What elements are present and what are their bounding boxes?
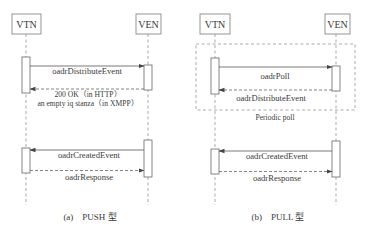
actor-vtn: VTN: [200, 14, 230, 34]
actor-vtn: VTN: [12, 14, 41, 34]
panel-pull: VTN VEN Periodic poll oadrPoll oadrDistr…: [196, 14, 355, 222]
actor-ven-label: VEN: [138, 19, 159, 30]
actor-ven: VEN: [325, 14, 350, 34]
msg-response: oadrResponse: [253, 173, 301, 183]
periodic-poll-label: Periodic poll: [255, 113, 294, 122]
actor-ven: VEN: [136, 14, 161, 34]
msg-poll: oadrPoll: [260, 71, 290, 81]
actor-ven-label: VEN: [327, 19, 348, 30]
activation-vtn-2: [22, 148, 30, 173]
actor-vtn-label: VTN: [205, 19, 226, 30]
msg-200-ok: 200 OK（in HTTP）: [54, 90, 121, 99]
msg-response: oadrResponse: [65, 172, 113, 182]
msg-created-event: oadrCreatedEvent: [246, 151, 309, 161]
msg-created-event: oadrCreatedEvent: [58, 150, 121, 160]
panel-push: VTN VEN oadrDistributeEvent 200 OK（in HT…: [12, 14, 161, 222]
actor-vtn-label: VTN: [16, 19, 37, 30]
activation-vtn-1: [211, 58, 219, 94]
activation-ven-2: [144, 140, 152, 177]
msg-distribute-event: oadrDistributeEvent: [236, 93, 306, 103]
activation-ven-1: [332, 66, 340, 91]
activation-vtn-1: [22, 57, 30, 93]
activation-ven-2: [332, 141, 340, 177]
activation-vtn-2: [211, 149, 219, 174]
caption-push: (a) PUSH 型: [63, 212, 116, 222]
sequence-diagrams: VTN VEN oadrDistributeEvent 200 OK（in HT…: [0, 0, 366, 231]
msg-distribute-event: oadrDistributeEvent: [52, 66, 122, 76]
msg-empty-iq-stanza: an empty iq stanza（in XMPP）: [37, 99, 138, 108]
activation-ven-1: [144, 65, 152, 90]
caption-pull: (b) PULL 型: [252, 212, 305, 222]
